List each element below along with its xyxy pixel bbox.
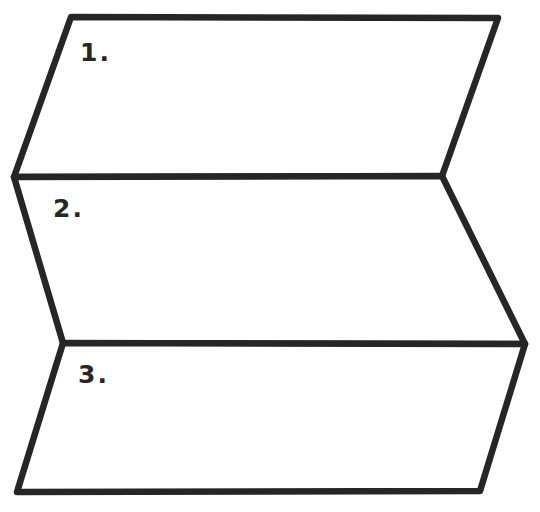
panel-2-outline	[14, 176, 525, 344]
panel-1-label: 1.	[80, 40, 111, 65]
folded-strip-diagram	[0, 0, 540, 512]
panel-3-label: 3.	[78, 362, 109, 387]
panel-2-label: 2.	[53, 196, 84, 221]
